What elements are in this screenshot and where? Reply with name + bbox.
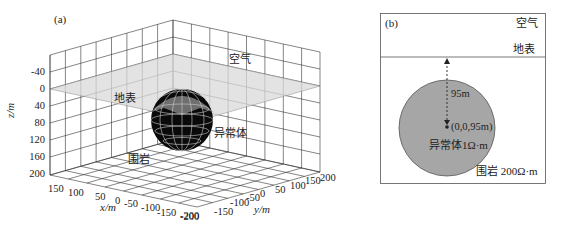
svg-text:200: 200: [29, 168, 45, 179]
svg-text:100: 100: [68, 187, 84, 198]
panel-a-3d-model: -40 0 40 80 120 160 200 z/m 150 100 50 0…: [0, 0, 380, 233]
x-axis-label: x/m: [99, 201, 116, 213]
svg-text:-50: -50: [124, 198, 138, 209]
surface-label: 地表: [513, 42, 535, 55]
host-rock-resistivity-label: 围岩 200Ω·m: [476, 164, 538, 177]
svg-text:-200: -200: [180, 210, 199, 221]
svg-text:160: 160: [29, 151, 45, 162]
panel-b-cross-section: (b) 空气 地表 95m (0,0,95m) 异常体1Ω·m 围岩 200Ω·…: [380, 0, 568, 233]
surface-annotation: 地表: [114, 91, 136, 104]
svg-text:40: 40: [35, 100, 46, 111]
y-axis-label: y/m: [253, 203, 270, 215]
anomaly-resistivity-label: 异常体1Ω·m: [429, 138, 488, 151]
svg-text:0: 0: [260, 188, 265, 199]
cross-section-schematic: (b) 空气 地表 95m (0,0,95m) 异常体1Ω·m 围岩 200Ω·…: [380, 0, 568, 233]
svg-text:0: 0: [40, 83, 45, 94]
center-point: [445, 125, 449, 129]
air-label: 空气: [516, 16, 538, 29]
svg-text:200: 200: [320, 172, 336, 183]
svg-text:100: 100: [290, 180, 306, 191]
z-axis-ticks: -40 0 40 80 120 160 200: [29, 66, 45, 179]
svg-text:-50: -50: [246, 192, 260, 203]
3d-model-plot: -40 0 40 80 120 160 200 z/m 150 100 50 0…: [0, 0, 380, 233]
svg-text:-150: -150: [157, 207, 176, 218]
panel-b-label: (b): [385, 17, 398, 30]
panel-a-label: (a): [54, 13, 67, 26]
svg-text:50: 50: [275, 184, 286, 195]
center-coordinate-label: (0,0,95m): [451, 121, 493, 133]
anomaly-annotation: 异常体: [214, 126, 247, 139]
air-annotation: 空气: [229, 52, 251, 65]
svg-text:150: 150: [48, 183, 64, 194]
z-axis-label: z/m: [4, 103, 16, 119]
svg-text:120: 120: [29, 134, 45, 145]
svg-text:-40: -40: [31, 66, 45, 77]
anomaly-sphere: [151, 89, 213, 151]
host-rock-annotation: 围岩: [128, 152, 150, 165]
depth-label: 95m: [451, 88, 470, 99]
svg-text:150: 150: [305, 175, 321, 186]
svg-text:80: 80: [35, 117, 46, 128]
